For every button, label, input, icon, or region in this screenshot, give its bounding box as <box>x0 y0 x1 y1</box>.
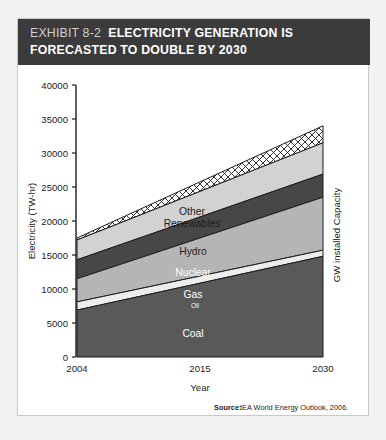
y-tick-0: 0 <box>63 352 76 363</box>
band-label-other-renewables-line2: Renewables <box>164 218 221 229</box>
band-label-other-renewables-line1: Other <box>179 206 205 217</box>
exhibit-number-label: EXHIBIT 8-2 <box>30 26 101 40</box>
y-tick-label: 10000 <box>41 284 68 295</box>
x-tick-label: 2015 <box>189 363 210 374</box>
y-tick-label: 25000 <box>41 182 68 193</box>
y-tick-label: 15000 <box>41 250 68 261</box>
page-root: EXHIBIT 8-2 ELECTRICITY GENERATION IS FO… <box>0 0 386 440</box>
band-label-oil: Oil <box>191 302 200 309</box>
y-tick-25000: 25000 <box>41 182 76 193</box>
y-tick-30000: 30000 <box>41 148 76 159</box>
band-label-hydro: Hydro <box>179 246 207 257</box>
y-tick-label: 40000 <box>41 80 68 91</box>
source-label: Source: <box>214 403 242 412</box>
y-axis: 40000 35000 30000 25000 <box>26 80 76 363</box>
y-tick-35000: 35000 <box>41 114 76 125</box>
stacked-area-chart: 40000 35000 30000 25000 <box>18 65 370 417</box>
exhibit-title-bar: EXHIBIT 8-2 ELECTRICITY GENERATION IS FO… <box>18 19 370 65</box>
band-label-coal: Coal <box>182 328 203 339</box>
x-tick-label: 2030 <box>312 363 333 374</box>
x-tick-label: 2004 <box>66 363 88 374</box>
y-tick-40000: 40000 <box>41 80 76 91</box>
y-tick-label: 5000 <box>47 318 68 329</box>
y-axis-label: Electricity (TW-hr) <box>26 183 37 260</box>
source-note: Source: IEA World Energy Outlook, 2006. <box>214 403 348 412</box>
y-tick-15000: 15000 <box>41 250 76 261</box>
y-tick-10000: 10000 <box>41 284 76 295</box>
y2-axis: GW installed Capacity <box>331 188 342 283</box>
y-tick-label: 20000 <box>41 216 68 227</box>
band-label-gas: Gas <box>184 289 203 300</box>
source-text: IEA World Energy Outlook, 2006. <box>240 403 348 412</box>
exhibit-title-line: EXHIBIT 8-2 ELECTRICITY GENERATION IS FO… <box>30 25 358 58</box>
y-tick-label: 35000 <box>41 114 68 125</box>
stacked-bands <box>77 126 323 357</box>
y-tick-label: 0 <box>63 352 68 363</box>
x-axis-label: Year <box>190 382 210 393</box>
exhibit-card: EXHIBIT 8-2 ELECTRICITY GENERATION IS FO… <box>17 18 369 416</box>
chart-plot-area: 40000 35000 30000 25000 <box>18 65 370 417</box>
band-label-nuclear: Nuclear <box>175 267 211 278</box>
y-tick-5000: 5000 <box>47 318 76 329</box>
x-axis: 2004 2015 2030 Year <box>66 363 333 393</box>
y-tick-20000: 20000 <box>41 216 76 227</box>
y2-axis-label: GW installed Capacity <box>331 188 342 283</box>
y-tick-label: 30000 <box>41 148 68 159</box>
